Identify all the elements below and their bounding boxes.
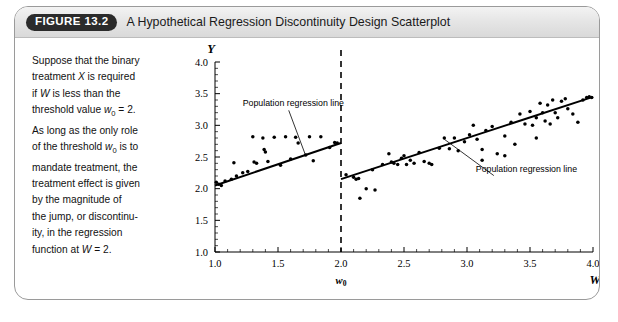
- y-axis-label: Y: [207, 42, 216, 56]
- data-point: [543, 119, 547, 123]
- data-point: [518, 112, 522, 116]
- scatterplot: 1.01.52.02.53.03.54.01.01.52.02.53.03.54…: [165, 38, 600, 300]
- figure-card: FIGURE 13.2 A Hypothetical Regression Di…: [14, 6, 600, 300]
- y-tick-label: 3.5: [195, 88, 208, 99]
- data-point: [463, 140, 467, 144]
- data-point: [422, 160, 426, 164]
- x-tick-label: 2.0: [335, 258, 348, 269]
- data-point: [560, 100, 564, 104]
- data-point: [364, 187, 368, 191]
- caption-line: treatment X is required: [32, 69, 178, 85]
- data-point: [571, 112, 575, 116]
- data-point: [387, 152, 391, 156]
- y-tick-label: 1.5: [195, 215, 208, 226]
- x-tick-label: 2.5: [398, 258, 411, 269]
- caption-line: As long as the only role: [32, 123, 178, 139]
- scatter-series: [344, 95, 593, 200]
- data-point: [246, 170, 250, 174]
- figure-header: FIGURE 13.2 A Hypothetical Regression Di…: [15, 7, 599, 38]
- data-point: [448, 147, 452, 151]
- x-tick-label: 3.5: [524, 258, 537, 269]
- data-point: [272, 136, 276, 140]
- data-point: [241, 171, 245, 175]
- data-point: [551, 98, 555, 102]
- data-point: [523, 122, 527, 126]
- data-point: [430, 163, 434, 167]
- x-tick-label: 4.0: [587, 258, 600, 269]
- data-point: [480, 158, 484, 162]
- data-point: [538, 101, 542, 105]
- y-tick-label: 2.0: [195, 183, 208, 194]
- data-point: [264, 150, 268, 154]
- x-tick-label: 3.0: [461, 258, 474, 269]
- data-point: [344, 173, 348, 177]
- caption-line: Suppose that the binary: [32, 53, 178, 69]
- y-tick-label: 4.0: [195, 57, 208, 68]
- data-point: [503, 154, 507, 158]
- data-point: [308, 135, 312, 139]
- data-point: [232, 161, 236, 165]
- data-point: [266, 160, 270, 164]
- data-point: [472, 124, 476, 128]
- data-point: [261, 136, 265, 140]
- caption-line: treatment effect is given: [32, 176, 178, 192]
- data-point: [284, 135, 288, 139]
- caption-line: the jump, or discontinu-: [32, 209, 178, 225]
- caption-line: of the threshold w0 is to: [32, 139, 178, 159]
- x-tick-label: 1.0: [209, 258, 222, 269]
- annotation-leader-line: [444, 139, 494, 175]
- annotation-label: Population regression line: [243, 98, 344, 108]
- data-point: [412, 162, 416, 166]
- data-point: [358, 196, 362, 200]
- data-point: [503, 134, 507, 138]
- y-tick-label: 2.5: [195, 152, 208, 163]
- scatterplot-canvas: 1.01.52.02.53.03.54.01.01.52.02.53.03.54…: [165, 38, 600, 300]
- data-point: [513, 143, 517, 147]
- data-point: [402, 154, 406, 158]
- data-point: [251, 135, 255, 139]
- data-point: [528, 110, 532, 114]
- data-point: [294, 136, 298, 140]
- data-point: [556, 116, 560, 120]
- data-point: [405, 163, 409, 167]
- data-point: [576, 120, 580, 124]
- data-point: [296, 141, 300, 145]
- data-point: [490, 125, 494, 129]
- y-tick-label: 1.0: [195, 247, 208, 258]
- x-tick-label: 1.5: [272, 258, 285, 269]
- data-point: [531, 124, 535, 128]
- data-point: [396, 163, 400, 167]
- annotation-leader-line: [289, 110, 306, 155]
- data-point: [255, 162, 259, 166]
- caption-line: function at W = 2.: [32, 242, 178, 258]
- data-point: [553, 111, 557, 115]
- data-point: [566, 107, 570, 111]
- data-point: [443, 136, 447, 140]
- figure-number-badge: FIGURE 13.2: [26, 14, 117, 31]
- data-point: [564, 97, 568, 101]
- caption-line: mandate treatment, the: [32, 160, 178, 176]
- caption-line: by the magnitude of: [32, 192, 178, 208]
- figure-title: A Hypothetical Regression Discontinuity …: [126, 15, 450, 29]
- data-point: [548, 122, 552, 126]
- threshold-label: w0: [336, 275, 347, 288]
- data-point: [480, 148, 484, 152]
- annotation-label: Population regression line: [476, 164, 577, 174]
- data-point: [453, 136, 457, 140]
- figure-body: Suppose that the binarytreatment X is re…: [15, 38, 599, 299]
- x-axis-label: W: [589, 273, 600, 287]
- caption-line: ity, in the regression: [32, 225, 178, 241]
- data-point: [357, 177, 361, 181]
- data-point: [312, 159, 316, 163]
- data-point: [475, 138, 479, 142]
- caption-line: threshold value w0 = 2.: [32, 102, 178, 122]
- data-point: [373, 188, 377, 192]
- data-point: [495, 152, 499, 156]
- data-point: [546, 103, 550, 107]
- caption-line: if W is less than the: [32, 86, 178, 102]
- figure-caption: Suppose that the binarytreatment X is re…: [32, 53, 178, 258]
- y-tick-label: 3.0: [195, 120, 208, 131]
- data-point: [535, 136, 539, 140]
- data-point: [319, 135, 323, 139]
- data-point: [409, 158, 413, 162]
